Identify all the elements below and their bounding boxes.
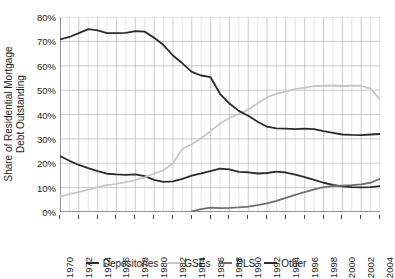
- plot-svg: [60, 17, 380, 212]
- x-tick-mark: [379, 215, 380, 219]
- y-tick-label: 10%: [22, 182, 56, 193]
- plot-area: [60, 17, 380, 212]
- y-tick-label: 0%: [22, 207, 56, 218]
- x-tick-mark: [59, 215, 60, 219]
- x-tick-mark: [360, 215, 361, 219]
- y-tick-label: 30%: [22, 133, 56, 144]
- y-tick-label: 80%: [22, 12, 56, 23]
- legend-swatch-icon: [167, 262, 180, 264]
- x-tick-mark: [228, 215, 229, 219]
- x-tick-mark: [304, 215, 305, 219]
- x-tick-mark: [134, 215, 135, 219]
- x-tick-mark: [153, 215, 154, 219]
- y-tick-label: 40%: [22, 109, 56, 120]
- legend-label: PLS: [236, 258, 255, 269]
- legend-swatch-icon: [219, 262, 232, 264]
- legend-label: GSEs: [184, 258, 210, 269]
- x-tick-mark: [210, 215, 211, 219]
- legend-label: Depositories: [103, 258, 159, 269]
- x-tick-mark: [341, 215, 342, 219]
- y-tick-label: 20%: [22, 158, 56, 169]
- legend-swatch-icon: [86, 262, 99, 264]
- legend-item-depositories[interactable]: Depositories: [86, 258, 159, 269]
- legend-swatch-icon: [264, 262, 277, 264]
- x-tick-mark: [97, 215, 98, 219]
- x-tick-mark: [115, 215, 116, 219]
- x-tick-mark: [323, 215, 324, 219]
- chart-legend: DepositoriesGSEsPLSOther: [0, 253, 392, 273]
- y-tick-label: 60%: [22, 60, 56, 71]
- x-tick-mark: [172, 215, 173, 219]
- legend-label: Other: [281, 258, 306, 269]
- x-tick-mark: [266, 215, 267, 219]
- x-tick-mark: [247, 215, 248, 219]
- x-tick-mark: [285, 215, 286, 219]
- legend-item-pls[interactable]: PLS: [219, 258, 255, 269]
- y-axis-title-line1: Share of Residential Mortgage: [3, 46, 15, 181]
- y-tick-label: 50%: [22, 85, 56, 96]
- legend-item-gses[interactable]: GSEs: [167, 258, 210, 269]
- legend-item-other[interactable]: Other: [264, 258, 306, 269]
- x-tick-mark: [191, 215, 192, 219]
- y-tick-label: 70%: [22, 36, 56, 47]
- x-tick-mark: [78, 215, 79, 219]
- y-axis-tick-labels: 80%70%60%50%40%30%20%10%0%: [20, 0, 56, 279]
